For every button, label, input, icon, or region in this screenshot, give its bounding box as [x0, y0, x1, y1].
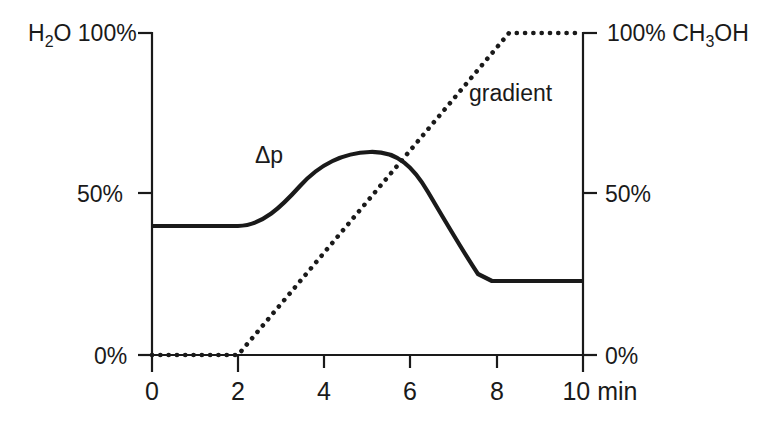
- left-axis-label-50: 50%: [77, 181, 123, 207]
- left-axis-top-label-subscript: 2: [45, 33, 54, 50]
- right-axis-label-50: 50%: [605, 181, 651, 207]
- series-deltap-line: [152, 152, 583, 281]
- x-axis-label-8: 8: [490, 377, 504, 405]
- right-axis-top-label-rest: OH: [714, 20, 749, 46]
- x-axis-label-10: 10 min: [562, 377, 637, 405]
- left-axis-top-label-h: H: [28, 20, 45, 46]
- right-axis-label-0: 0%: [605, 343, 638, 369]
- left-axis-label-0: 0%: [94, 343, 127, 369]
- right-axis-top-label-subscript: 3: [705, 33, 714, 50]
- series-label-deltap: Δp: [255, 142, 283, 168]
- x-axis-label-6: 6: [403, 377, 417, 405]
- right-axis-top-label: 100% CH3OH: [607, 20, 749, 50]
- x-axis-label-2: 2: [231, 377, 245, 405]
- left-axis-top-label-rest: O 100%: [54, 20, 137, 46]
- chromatography-gradient-chart: H2O 100% 50% 0% 100% CH3OH 50% 0% 0 2 4 …: [0, 0, 757, 422]
- left-axis-top-label: H2O 100%: [28, 20, 137, 50]
- chart-canvas: H2O 100% 50% 0% 100% CH3OH 50% 0% 0 2 4 …: [0, 0, 757, 422]
- right-axis-top-label-pre: 100% CH: [607, 20, 705, 46]
- series-label-gradient: gradient: [469, 80, 553, 106]
- x-axis-label-0: 0: [145, 377, 159, 405]
- x-axis-label-4: 4: [317, 377, 331, 405]
